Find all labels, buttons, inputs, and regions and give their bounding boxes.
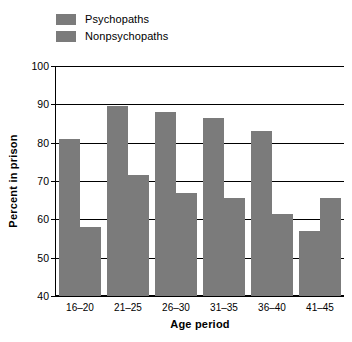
bar-group: 21–25	[107, 66, 149, 296]
bar-group: 16–20	[59, 66, 101, 296]
bar-psychopaths	[299, 231, 320, 296]
bar-nonpsychopaths	[272, 214, 293, 296]
y-tick-label: 70	[37, 175, 49, 187]
bar-group: 31–35	[203, 66, 245, 296]
y-tick-label: 50	[37, 252, 49, 264]
legend-swatch-nonpsychopaths	[56, 31, 76, 42]
legend-swatch-psychopaths	[56, 14, 76, 25]
y-tick-mark	[51, 219, 56, 220]
legend-label-nonpsychopaths: Nonpsychopaths	[85, 30, 168, 42]
bar-group: 41–45	[299, 66, 341, 296]
bar-nonpsychopaths	[176, 193, 197, 297]
bar-nonpsychopaths	[80, 227, 101, 296]
y-tick-mark	[51, 296, 56, 297]
bar-chart-figure: Psychopaths Nonpsychopaths 4050607080901…	[0, 0, 352, 342]
y-tick-label: 80	[37, 137, 49, 149]
bar-psychopaths	[251, 131, 272, 296]
y-axis-title: Percent in prison	[7, 134, 19, 227]
y-tick-label: 40	[37, 290, 49, 302]
bar-group: 36–40	[251, 66, 293, 296]
bar-group: 26–30	[155, 66, 197, 296]
legend-item-nonpsychopaths: Nonpsychopaths	[56, 29, 168, 43]
y-tick-label: 100	[31, 60, 49, 72]
legend-item-psychopaths: Psychopaths	[56, 12, 168, 26]
bar-nonpsychopaths	[128, 175, 149, 296]
bar-nonpsychopaths	[320, 198, 341, 296]
bar-psychopaths	[59, 139, 80, 296]
bar-psychopaths	[203, 118, 224, 296]
y-tick-mark	[51, 258, 56, 259]
y-tick-label: 90	[37, 98, 49, 110]
plot-area: 405060708090100 16–2021–2526–3031–3536–4…	[56, 66, 344, 296]
bar-psychopaths	[107, 106, 128, 296]
bar-psychopaths	[155, 112, 176, 296]
y-tick-label: 60	[37, 213, 49, 225]
x-axis-title: Age period	[56, 318, 344, 330]
chart-legend: Psychopaths Nonpsychopaths	[56, 12, 168, 43]
bar-nonpsychopaths	[224, 198, 245, 296]
legend-label-psychopaths: Psychopaths	[85, 13, 149, 25]
x-tick-label: 41–45	[290, 302, 350, 313]
y-tick-mark	[51, 143, 56, 144]
y-tick-mark	[51, 66, 56, 67]
y-tick-mark	[51, 104, 56, 105]
y-tick-mark	[51, 181, 56, 182]
